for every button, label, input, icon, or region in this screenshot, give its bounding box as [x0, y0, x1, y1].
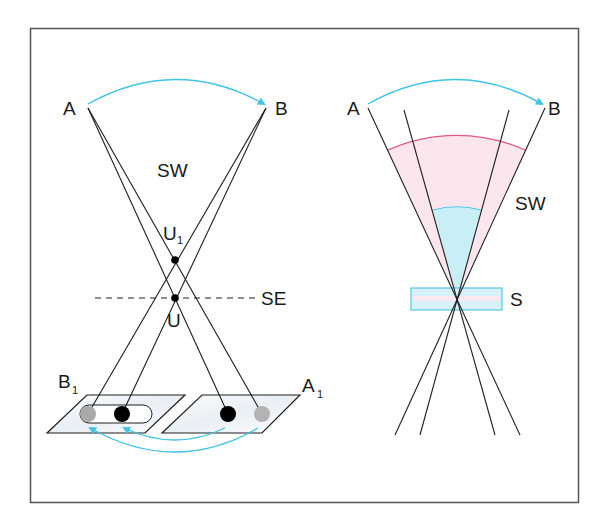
point-u — [171, 294, 179, 302]
ray-b-through-u — [122, 108, 266, 414]
label-u: U — [167, 310, 181, 331]
diagram-canvas: A B SW U 1 U SE B 1 A 1 A B SW S — [0, 0, 610, 529]
label-u1: U — [163, 223, 177, 244]
label-b1: B — [58, 371, 71, 392]
label-b-right: B — [548, 98, 561, 119]
label-se: SE — [261, 288, 286, 309]
point-u1 — [171, 256, 179, 264]
label-a-right: A — [347, 98, 360, 119]
label-a-left: A — [63, 98, 76, 119]
image-dot-gray-b1 — [80, 406, 96, 422]
label-b1-subscript: 1 — [72, 384, 78, 396]
image-dot-black-b1 — [114, 406, 130, 422]
ray-a-through-u — [88, 108, 228, 414]
image-dot-black-a1 — [220, 406, 236, 422]
rotation-arrow-left — [88, 80, 264, 105]
label-a1-subscript: 1 — [317, 388, 323, 400]
label-sw-left: SW — [157, 160, 188, 181]
right-panel: A B SW S — [347, 80, 561, 436]
left-panel: A B SW U 1 U SE B 1 A 1 — [47, 80, 323, 453]
label-u1-subscript: 1 — [177, 234, 183, 246]
rotation-arrow-right — [368, 80, 542, 105]
image-dot-gray-a1 — [254, 406, 270, 422]
label-b-left: B — [275, 98, 288, 119]
label-a1: A — [302, 375, 315, 396]
label-s: S — [510, 289, 523, 310]
label-sw-right: SW — [515, 193, 546, 214]
